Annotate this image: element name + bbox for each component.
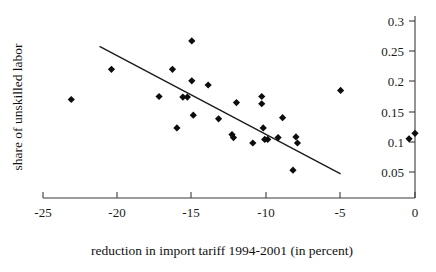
trend-line bbox=[100, 46, 341, 173]
chart-canvas: -25 -20 -15 -10 -5 0 0.3 0.25 0.2 0.15 0… bbox=[0, 0, 436, 272]
x-tick-label: -10 bbox=[257, 205, 274, 220]
x-axis-tick-labels: -25 -20 -15 -10 -5 0 bbox=[34, 205, 418, 220]
y-tick-label: 0.2 bbox=[388, 74, 404, 89]
data-point bbox=[108, 66, 115, 73]
data-point bbox=[188, 37, 195, 44]
x-tick-label: -5 bbox=[335, 205, 346, 220]
data-point bbox=[190, 112, 197, 119]
x-axis-title: reduction in import tariff 1994-2001 (in… bbox=[91, 243, 353, 258]
data-point bbox=[188, 77, 195, 84]
data-point bbox=[173, 124, 180, 131]
y-tick-label: 0.25 bbox=[381, 44, 404, 59]
data-point bbox=[279, 114, 286, 121]
y-tick-label: 0.05 bbox=[381, 165, 404, 180]
data-point bbox=[258, 93, 265, 100]
x-axis-ticks bbox=[43, 192, 415, 198]
y-tick-label: 0.3 bbox=[388, 14, 404, 29]
x-tick-label: -25 bbox=[34, 205, 51, 220]
data-point bbox=[233, 99, 240, 106]
data-point bbox=[405, 135, 412, 142]
data-point bbox=[155, 93, 162, 100]
y-axis-title: share of unskilled labor bbox=[10, 43, 25, 171]
data-point bbox=[289, 167, 296, 174]
data-point bbox=[292, 133, 299, 140]
x-tick-label: -15 bbox=[182, 205, 199, 220]
data-point bbox=[260, 124, 267, 131]
data-point bbox=[337, 87, 344, 94]
data-point bbox=[294, 139, 301, 146]
y-axis-ticks bbox=[409, 21, 415, 172]
data-point bbox=[249, 139, 256, 146]
y-axis-tick-labels: 0.3 0.25 0.2 0.15 0.1 0.05 bbox=[381, 14, 404, 180]
y-tick-label: 0.15 bbox=[381, 105, 404, 120]
data-point bbox=[215, 115, 222, 122]
data-point bbox=[68, 96, 75, 103]
y-tick-label: 0.1 bbox=[388, 135, 404, 150]
data-point bbox=[169, 66, 176, 73]
x-tick-label: 0 bbox=[412, 205, 419, 220]
data-point bbox=[411, 130, 418, 137]
scatter-chart: -25 -20 -15 -10 -5 0 0.3 0.25 0.2 0.15 0… bbox=[0, 0, 436, 272]
data-point bbox=[205, 81, 212, 88]
x-tick-label: -20 bbox=[108, 205, 125, 220]
data-point bbox=[258, 100, 265, 107]
